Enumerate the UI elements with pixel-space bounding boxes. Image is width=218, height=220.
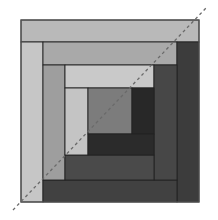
strip-bottom-2 xyxy=(65,155,154,180)
strip-left-1 xyxy=(21,42,43,202)
quilt-pieces xyxy=(21,20,199,202)
center-square xyxy=(88,88,132,134)
strip-bottom-1 xyxy=(43,180,177,202)
strip-left-2 xyxy=(43,65,65,180)
strip-right-2 xyxy=(154,65,177,180)
strip-top-1 xyxy=(21,20,199,42)
log-cabin-diagram xyxy=(0,0,218,220)
strip-top-3 xyxy=(65,65,154,88)
strip-right-3 xyxy=(132,88,154,134)
strip-top-2 xyxy=(43,42,177,65)
strip-bottom-3 xyxy=(88,134,154,155)
strip-right-1 xyxy=(177,42,199,202)
strip-left-3 xyxy=(65,88,88,155)
